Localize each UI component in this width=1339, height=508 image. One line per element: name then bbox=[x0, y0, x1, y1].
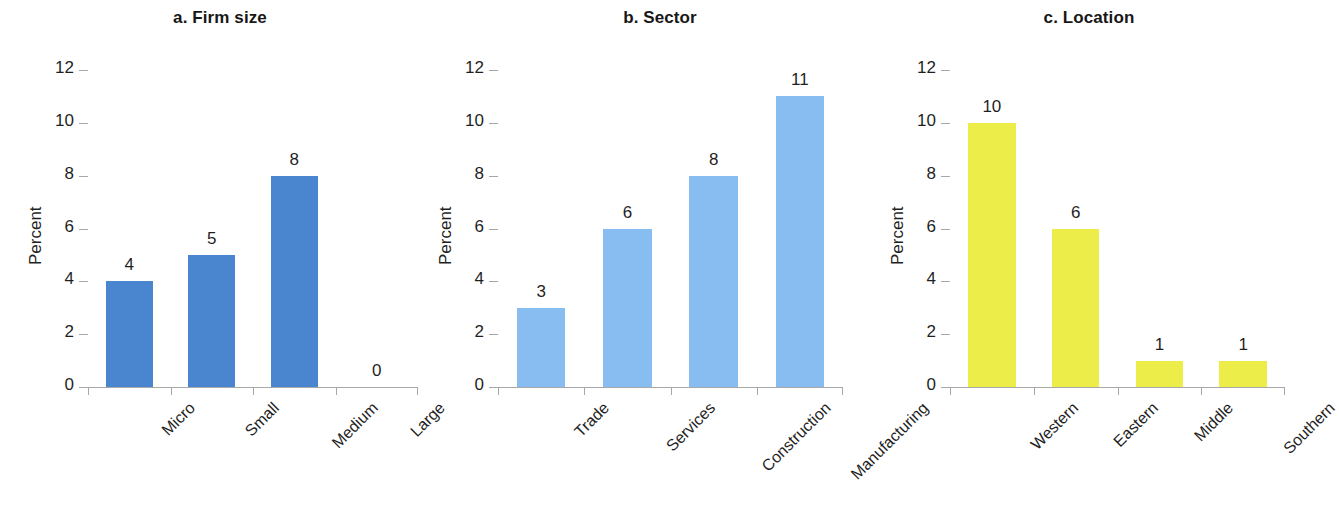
x-axis-category-label: Trade bbox=[571, 399, 613, 441]
y-axis-tick-mark bbox=[941, 334, 950, 335]
y-axis-tick-label: 8 bbox=[475, 164, 484, 184]
y-axis-tick-mark bbox=[941, 70, 950, 71]
x-axis-tick-mark bbox=[498, 387, 499, 395]
y-axis-tick-label: 2 bbox=[927, 322, 936, 342]
plot-area: 02468101236811 bbox=[498, 70, 843, 387]
x-axis-tick-mark bbox=[1034, 387, 1035, 395]
bar bbox=[1052, 229, 1099, 388]
y-axis-tick-mark bbox=[941, 123, 950, 124]
bar bbox=[271, 176, 318, 387]
y-axis-tick-mark bbox=[79, 334, 88, 335]
y-axis-tick-mark bbox=[489, 229, 498, 230]
bar bbox=[106, 281, 153, 387]
bar-value-label: 8 bbox=[709, 150, 718, 170]
x-axis-category-label: Small bbox=[241, 399, 282, 440]
bar bbox=[603, 229, 652, 388]
bar-value-label: 0 bbox=[372, 361, 381, 381]
y-axis-label: Percent bbox=[436, 206, 456, 265]
y-axis-tick-label: 0 bbox=[927, 375, 936, 395]
plot-area: 0246810124580 bbox=[88, 70, 418, 387]
x-axis-category-label: Southern bbox=[1280, 399, 1339, 458]
panel-title: c. Location bbox=[880, 8, 1298, 28]
y-axis-tick-label: 0 bbox=[65, 375, 74, 395]
bar bbox=[1219, 361, 1266, 387]
bar bbox=[1136, 361, 1183, 387]
x-axis-tick-mark bbox=[671, 387, 672, 395]
y-axis-tick-label: 6 bbox=[65, 217, 74, 237]
y-axis-tick-mark bbox=[941, 281, 950, 282]
x-axis-tick-mark bbox=[1118, 387, 1119, 395]
y-axis-tick-mark bbox=[489, 387, 498, 388]
y-axis-tick-mark bbox=[489, 70, 498, 71]
panel-a: a. Firm sizePercentMicroSmallMediumLarge… bbox=[0, 0, 440, 508]
y-axis-tick-label: 0 bbox=[475, 375, 484, 395]
x-axis-tick-mark bbox=[336, 387, 337, 395]
x-axis-category-label: Micro bbox=[159, 399, 199, 439]
x-axis-category-label: Western bbox=[1027, 399, 1082, 454]
y-axis-label: Percent bbox=[888, 206, 908, 265]
y-axis-tick-mark bbox=[489, 123, 498, 124]
y-axis-tick-mark bbox=[489, 176, 498, 177]
y-axis-tick-label: 2 bbox=[65, 322, 74, 342]
bar bbox=[188, 255, 235, 387]
x-axis-category-label: Construction bbox=[758, 399, 834, 475]
y-axis-tick-label: 10 bbox=[465, 111, 484, 131]
y-axis-tick-label: 4 bbox=[65, 269, 74, 289]
y-axis-tick-mark bbox=[941, 229, 950, 230]
y-axis-tick-label: 4 bbox=[475, 269, 484, 289]
y-axis-tick-mark bbox=[489, 281, 498, 282]
bar bbox=[776, 96, 825, 387]
y-axis-tick-mark bbox=[79, 70, 88, 71]
x-axis-category-label: Services bbox=[663, 399, 719, 455]
x-axis-category-label: Eastern bbox=[1110, 399, 1162, 451]
bar-value-label: 5 bbox=[207, 229, 216, 249]
y-axis-tick-mark bbox=[489, 334, 498, 335]
y-axis-tick-mark bbox=[79, 176, 88, 177]
y-axis-tick-label: 12 bbox=[917, 58, 936, 78]
panel-title: a. Firm size bbox=[0, 8, 440, 28]
y-axis-tick-mark bbox=[79, 123, 88, 124]
bar-value-label: 8 bbox=[290, 150, 299, 170]
y-axis-tick-label: 4 bbox=[927, 269, 936, 289]
y-axis-tick-label: 12 bbox=[55, 58, 74, 78]
bar-value-label: 1 bbox=[1238, 335, 1247, 355]
y-axis-tick-label: 8 bbox=[927, 164, 936, 184]
x-axis-tick-mark bbox=[1201, 387, 1202, 395]
bar-value-label: 10 bbox=[982, 97, 1001, 117]
bar bbox=[517, 308, 566, 387]
x-axis-tick-mark bbox=[1284, 387, 1285, 395]
bar-value-label: 3 bbox=[536, 282, 545, 302]
bar-value-label: 1 bbox=[1155, 335, 1164, 355]
y-axis-tick-label: 6 bbox=[475, 217, 484, 237]
y-axis-tick-mark bbox=[79, 281, 88, 282]
x-axis-tick-mark bbox=[757, 387, 758, 395]
bar-value-label: 6 bbox=[623, 203, 632, 223]
x-axis-tick-mark bbox=[88, 387, 89, 395]
y-axis-tick-label: 10 bbox=[55, 111, 74, 131]
x-axis-tick-mark bbox=[253, 387, 254, 395]
x-axis-category-label: Medium bbox=[329, 399, 382, 452]
bar-value-label: 11 bbox=[791, 70, 809, 90]
x-axis-tick-mark bbox=[842, 387, 843, 395]
x-axis-tick-mark bbox=[171, 387, 172, 395]
x-axis-tick-mark bbox=[417, 387, 418, 395]
plot-area: 02468101210611 bbox=[950, 70, 1285, 387]
bar-value-label: 6 bbox=[1071, 203, 1080, 223]
y-axis-tick-mark bbox=[941, 387, 950, 388]
bar-value-label: 4 bbox=[125, 255, 134, 275]
y-axis-tick-label: 6 bbox=[927, 217, 936, 237]
y-axis-tick-label: 12 bbox=[465, 58, 484, 78]
y-axis-tick-mark bbox=[79, 229, 88, 230]
y-axis-tick-mark bbox=[79, 387, 88, 388]
y-axis-tick-label: 8 bbox=[65, 164, 74, 184]
y-axis-tick-label: 10 bbox=[917, 111, 936, 131]
y-axis-label: Percent bbox=[26, 206, 46, 265]
x-axis-tick-mark bbox=[584, 387, 585, 395]
panel-b: b. SectorPercentTradeServicesConstructio… bbox=[440, 0, 880, 508]
panel-title: b. Sector bbox=[440, 8, 880, 28]
y-axis-tick-mark bbox=[941, 176, 950, 177]
x-axis-tick-mark bbox=[950, 387, 951, 395]
bar bbox=[689, 176, 738, 387]
x-axis-category-label: Middle bbox=[1191, 399, 1237, 445]
